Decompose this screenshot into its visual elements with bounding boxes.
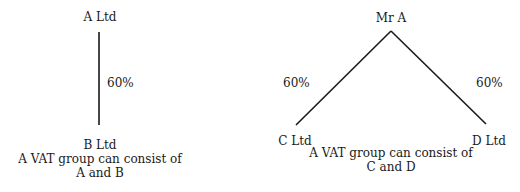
node-d-ltd: D Ltd — [472, 134, 506, 148]
node-mr-a: Mr A — [376, 11, 407, 25]
caption-right-line1: A VAT group can consist of — [309, 146, 473, 160]
node-a-ltd: A Ltd — [84, 10, 117, 24]
ownership-mra-d: 60% — [476, 76, 503, 90]
node-c-ltd: C Ltd — [278, 134, 311, 148]
ownership-mra-c: 60% — [283, 76, 310, 90]
caption-left-line2: A and B — [76, 166, 124, 180]
node-b-ltd: B Ltd — [83, 138, 116, 152]
line-mra-to-c — [296, 31, 391, 125]
caption-left-line1: A VAT group can consist of — [18, 152, 182, 166]
ownership-a-b: 60% — [107, 76, 134, 90]
caption-right-line2: C and D — [367, 160, 416, 174]
line-mra-to-d — [391, 31, 486, 124]
